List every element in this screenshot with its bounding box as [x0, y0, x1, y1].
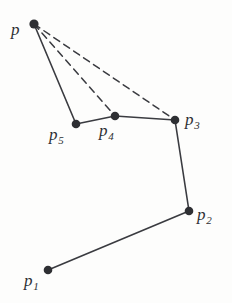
vertex-label-p2-base: p	[197, 205, 206, 224]
vertex-label-p4: p4	[99, 122, 113, 139]
vertex-p	[29, 19, 38, 28]
vertex-label-p1-subscript: 1	[33, 280, 39, 292]
edge-p-p4	[34, 24, 115, 116]
edge-p2-p3	[175, 120, 189, 211]
vertex-label-p2: p2	[197, 206, 211, 223]
vertex-label-p4-subscript: 4	[108, 130, 114, 142]
vertex-layer	[29, 19, 193, 274]
vertex-p4	[111, 112, 120, 121]
diagram-canvas	[0, 0, 232, 303]
vertex-p3	[171, 116, 180, 125]
edge-layer	[34, 24, 189, 270]
vertex-label-p3-subscript: 3	[194, 119, 200, 131]
vertex-label-p5: p5	[49, 126, 63, 143]
vertex-label-p5-subscript: 5	[58, 134, 64, 146]
vertex-p1	[44, 266, 53, 275]
vertex-label-p1-base: p	[24, 271, 33, 290]
edge-p1-p2	[48, 211, 189, 270]
vertex-p5	[72, 120, 81, 129]
edge-p3-p4	[115, 116, 175, 120]
geometry-figure: p p1 p2 p3 p4 p5	[0, 0, 232, 303]
vertex-label-p3: p3	[185, 111, 199, 128]
vertex-label-p5-base: p	[49, 125, 58, 144]
vertex-label-p3-base: p	[185, 110, 194, 129]
vertex-label-p4-base: p	[99, 121, 108, 140]
vertex-label-p2-subscript: 2	[206, 214, 212, 226]
vertex-label-p: p	[11, 21, 20, 38]
edge-p-p3	[34, 24, 175, 120]
vertex-p2	[185, 207, 194, 216]
vertex-label-p-base: p	[11, 20, 20, 39]
vertex-label-p1: p1	[24, 272, 38, 289]
